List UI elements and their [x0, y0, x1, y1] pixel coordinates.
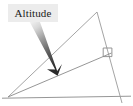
callout-label-text: Altitude: [15, 8, 52, 19]
altitude-segment: [8, 53, 112, 97]
altitude-diagram: Altitude: [0, 0, 133, 106]
triangle-base-line: [2, 96, 131, 98]
triangle-side-left: [8, 12, 97, 97]
callout-label-box: Altitude: [8, 4, 58, 22]
pointer-arrow-icon: [30, 22, 63, 76]
